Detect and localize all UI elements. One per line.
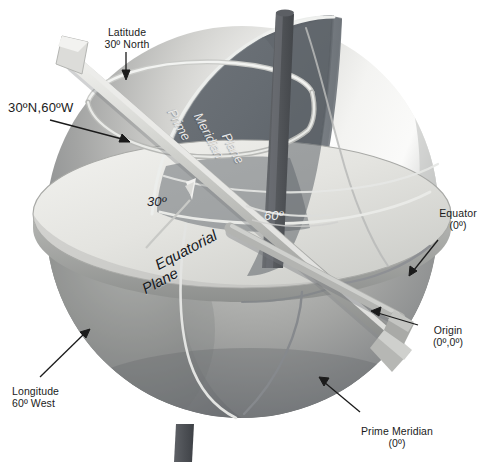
label-origin: Origin (0º,0º) bbox=[420, 324, 476, 348]
label-angle-60: 60º bbox=[264, 208, 283, 223]
arrow-longitude-line bbox=[40, 334, 84, 377]
label-longitude-60-west: Longitude 60º West bbox=[12, 385, 104, 409]
label-equator: Equator (0º) bbox=[432, 207, 484, 231]
label-angle-30: 30º bbox=[147, 194, 166, 209]
label-latitude-30-north: Latitude 30º North bbox=[84, 26, 170, 50]
diagram-canvas: Latitude 30º North 30ºN,60ºW Equator (0º… bbox=[0, 0, 484, 463]
label-prime-meridian: Prime Meridian (0º) bbox=[344, 425, 450, 449]
label-coordinate-30n-60w: 30ºN,60ºW bbox=[8, 100, 128, 115]
stand-leg bbox=[174, 424, 194, 462]
